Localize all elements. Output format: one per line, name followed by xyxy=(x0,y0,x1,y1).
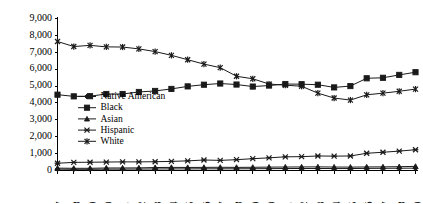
data-point-square xyxy=(397,72,402,77)
data-point-x xyxy=(380,150,386,155)
data-point-x xyxy=(396,149,402,154)
data-point-square xyxy=(71,94,76,99)
chart-legend: Native AmericanBlackAsianHispanicWhite xyxy=(78,91,165,146)
data-point-x xyxy=(282,154,288,159)
data-point-x xyxy=(364,151,370,156)
y-tick-label: 7,000 xyxy=(30,46,53,57)
x-tick-label: 1997 xyxy=(217,202,228,204)
x-tick-label: 1991 xyxy=(119,202,130,204)
y-tick-group: 01,0002,0003,0004,0005,0006,0007,0008,00… xyxy=(30,12,58,175)
data-point-square xyxy=(348,83,353,88)
y-tick-label: 2,000 xyxy=(30,130,53,141)
data-point-star xyxy=(55,38,60,44)
data-point-x xyxy=(84,128,90,133)
legend-label: White xyxy=(101,136,124,146)
x-tick-label: 2009 xyxy=(412,202,423,204)
data-point-x xyxy=(250,156,256,161)
legend-item-black: Black xyxy=(78,102,123,112)
data-point-square xyxy=(201,82,206,87)
data-point-x xyxy=(348,153,354,158)
data-point-square xyxy=(218,81,223,86)
legend-item-hispanic: Hispanic xyxy=(78,125,134,135)
y-tick-label: 8,000 xyxy=(30,29,53,40)
line-chart: 01,0002,0003,0004,0005,0006,0007,0008,00… xyxy=(0,0,423,203)
data-point-x xyxy=(266,155,272,160)
x-tick-label: 2006 xyxy=(363,202,374,204)
x-tick-label: 1995 xyxy=(184,202,195,204)
data-point-square xyxy=(250,84,255,89)
data-point-square xyxy=(364,76,369,81)
x-tick-label: 2008 xyxy=(396,202,407,204)
y-tick-label: 0 xyxy=(47,164,52,175)
data-point-square xyxy=(315,82,320,87)
x-tick-label: 1993 xyxy=(152,202,163,204)
y-tick-label: 3,000 xyxy=(30,113,53,124)
data-point-x xyxy=(103,160,109,165)
data-point-star xyxy=(315,90,320,96)
legend-label: Asian xyxy=(101,114,123,124)
data-point-x xyxy=(217,158,223,163)
data-point-x xyxy=(331,154,337,159)
data-point-square xyxy=(234,82,239,87)
data-point-square xyxy=(380,75,385,80)
x-tick-label: 2004 xyxy=(331,202,342,204)
data-point-triangle xyxy=(85,116,90,121)
x-tick-label: 2000 xyxy=(266,202,277,204)
data-point-x xyxy=(315,153,321,158)
y-tick-label: 4,000 xyxy=(30,96,53,107)
data-point-x xyxy=(169,159,175,164)
x-tick-label: 1987 xyxy=(54,202,65,204)
x-tick-label: 2002 xyxy=(298,202,309,204)
legend-label: Native American xyxy=(101,91,166,101)
x-tick-label: 1992 xyxy=(136,202,147,204)
x-tick-label: 1998 xyxy=(233,202,244,204)
x-tick-label: 2001 xyxy=(282,202,293,204)
y-tick-label: 5,000 xyxy=(30,79,53,90)
y-tick-label: 6,000 xyxy=(30,62,53,73)
x-tick-label: 1989 xyxy=(87,202,98,204)
data-point-x xyxy=(71,160,77,165)
series-hispanic xyxy=(55,147,419,166)
data-point-square xyxy=(84,105,89,110)
data-point-x xyxy=(413,147,419,152)
data-point-x xyxy=(152,159,158,164)
data-point-x xyxy=(299,154,305,159)
data-point-square xyxy=(332,85,337,90)
data-point-square xyxy=(169,86,174,91)
x-tick-label: 1996 xyxy=(201,202,212,204)
x-tick-label: 2007 xyxy=(380,202,391,204)
data-point-square xyxy=(413,70,418,75)
data-point-x xyxy=(185,158,191,163)
legend-label: Hispanic xyxy=(101,125,135,135)
data-point-x xyxy=(201,158,207,163)
x-tick-label: 2005 xyxy=(347,202,358,204)
x-tick-label: 1994 xyxy=(168,202,179,204)
data-point-square xyxy=(55,92,60,97)
data-point-x xyxy=(87,160,93,165)
x-tick-label: 1999 xyxy=(250,202,261,204)
data-point-x xyxy=(234,157,240,162)
legend-label: Black xyxy=(101,102,123,112)
x-tick-label: 2003 xyxy=(315,202,326,204)
data-point-x xyxy=(136,159,142,164)
chart-container: 01,0002,0003,0004,0005,0006,0007,0008,00… xyxy=(0,0,423,203)
y-tick-label: 9,000 xyxy=(30,12,53,23)
y-axis-group: 01,0002,0003,0004,0005,0006,0007,0008,00… xyxy=(30,12,58,175)
x-axis-group: 1987198819891990199119921993199419951996… xyxy=(54,171,423,204)
data-point-x xyxy=(120,159,126,164)
data-point-square xyxy=(185,84,190,89)
y-tick-label: 1,000 xyxy=(30,147,53,158)
x-tick-group: 1987198819891990199119921993199419951996… xyxy=(54,171,423,204)
legend-item-native-american: Native American xyxy=(78,91,165,101)
series-line xyxy=(58,150,416,164)
x-tick-label: 1990 xyxy=(103,202,114,204)
legend-item-white: White xyxy=(78,136,124,146)
x-tick-label: 1988 xyxy=(71,202,82,204)
legend-item-asian: Asian xyxy=(78,114,123,124)
